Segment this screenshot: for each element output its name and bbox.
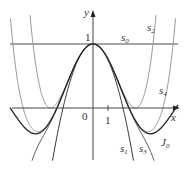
chart: y x 0 1 1 s0 s2 s4 J0 s1 s3 <box>0 0 188 169</box>
s2-label: s2 <box>147 21 155 35</box>
s0-label: s0 <box>121 31 129 45</box>
y-axis-label: y <box>83 6 89 18</box>
curves <box>10 15 178 161</box>
x-axis-label: x <box>170 111 176 123</box>
s1-label: s1 <box>120 142 128 156</box>
origin-label: 0 <box>82 110 88 122</box>
y-axis-arrow-icon <box>91 10 96 17</box>
s4-label: s4 <box>159 84 167 98</box>
s3-label: s3 <box>139 142 147 156</box>
y-tick-label: 1 <box>85 31 91 43</box>
j0-label: J0 <box>161 136 170 150</box>
x-tick-label: 1 <box>105 114 111 126</box>
